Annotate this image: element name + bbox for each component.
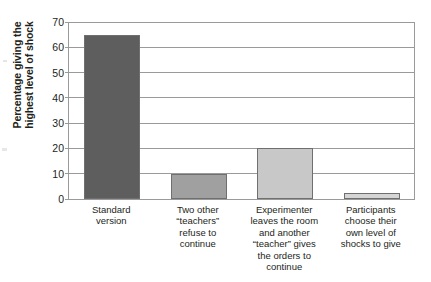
x-axis-category-label: Two other “teachers” refuse to continue <box>155 204 242 250</box>
y-tick-mark <box>65 123 69 124</box>
y-tick-label: 30 <box>52 117 64 129</box>
y-axis-title: Percentage giving the highest level of s… <box>0 0 46 170</box>
y-tick-mark <box>65 97 69 98</box>
y-tick-label: 40 <box>52 92 64 104</box>
plot-area: 010203040506070 <box>68 22 415 200</box>
y-tick-mark <box>65 173 69 174</box>
bar <box>257 148 313 199</box>
y-tick-label: 20 <box>52 142 64 154</box>
bar <box>171 174 227 199</box>
bar <box>84 35 140 199</box>
y-tick-label: 60 <box>52 41 64 53</box>
y-tick-label: 0 <box>58 193 64 205</box>
y-tick-label: 70 <box>52 16 64 28</box>
x-axis-category-label: Experimenter leaves the room and another… <box>241 204 328 272</box>
y-tick-mark <box>65 72 69 73</box>
x-axis-category-label: Participants choose their own level of s… <box>328 204 415 250</box>
y-tick-mark <box>65 22 69 23</box>
y-tick-mark <box>65 199 69 200</box>
gridline <box>69 22 415 23</box>
y-tick-label: 50 <box>52 67 64 79</box>
bar <box>344 193 400 199</box>
x-axis-category-label: Standard version <box>68 204 155 227</box>
y-tick-mark <box>65 47 69 48</box>
y-tick-mark <box>65 148 69 149</box>
bar-chart-figure: Percentage giving the highest level of s… <box>0 0 431 282</box>
y-tick-label: 10 <box>52 168 64 180</box>
